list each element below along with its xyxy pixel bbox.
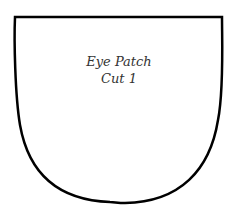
eye-patch-pattern-outline	[0, 0, 238, 219]
pattern-title: Eye Patch	[0, 54, 238, 70]
pattern-instruction: Cut 1	[0, 71, 238, 87]
